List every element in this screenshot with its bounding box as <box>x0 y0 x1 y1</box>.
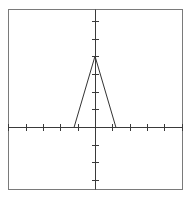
plot-area <box>0 0 190 199</box>
